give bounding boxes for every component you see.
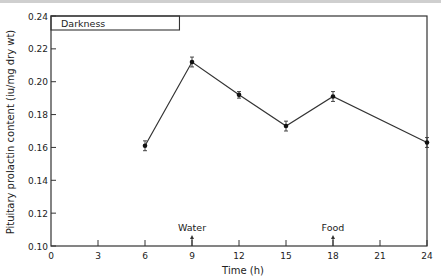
data-point [237, 93, 242, 98]
prolactin-line-chart: 0.100.120.140.160.180.200.220.2403691215… [0, 0, 441, 279]
y-tick-label: 0.22 [28, 44, 48, 54]
axes: 0.100.120.140.160.180.200.220.2403691215… [28, 12, 433, 262]
y-tick-label: 0.16 [28, 143, 48, 153]
x-tick-label: 3 [95, 251, 101, 261]
y-tick-label: 0.24 [28, 12, 48, 22]
y-tick-label: 0.12 [28, 209, 48, 219]
data-point [284, 124, 289, 129]
y-tick-label: 0.18 [28, 110, 48, 120]
y-tick-label: 0.10 [28, 242, 48, 252]
x-tick-label: 9 [189, 251, 195, 261]
x-tick-label: 6 [142, 251, 148, 261]
water-arrowhead-icon [190, 235, 194, 239]
page-top-border [0, 0, 441, 3]
x-tick-label: 0 [48, 251, 54, 261]
x-tick-label: 21 [374, 251, 385, 261]
food-arrowhead-icon [331, 235, 335, 239]
plot-frame [51, 16, 427, 246]
chart-canvas: 0.100.120.140.160.180.200.220.2403691215… [0, 0, 441, 279]
data-point [331, 94, 336, 99]
x-axis-label: Time (h) [221, 265, 264, 276]
annotations: DarknessWaterFood [51, 16, 344, 246]
food-label: Food [322, 222, 345, 233]
y-tick-label: 0.14 [28, 176, 48, 186]
data-series [143, 57, 430, 151]
x-tick-label: 15 [280, 251, 291, 261]
y-axis-label: Pituitary prolactin content (iu/mg dry w… [5, 30, 16, 235]
x-tick-label: 24 [421, 251, 433, 261]
x-tick-label: 18 [327, 251, 339, 261]
y-tick-label: 0.20 [28, 77, 48, 87]
data-point [425, 140, 430, 145]
data-point [190, 60, 195, 65]
water-label: Water [178, 222, 206, 233]
x-tick-label: 12 [233, 251, 244, 261]
darkness-label: Darkness [61, 18, 105, 29]
series-line [145, 62, 427, 146]
data-point [143, 143, 148, 148]
